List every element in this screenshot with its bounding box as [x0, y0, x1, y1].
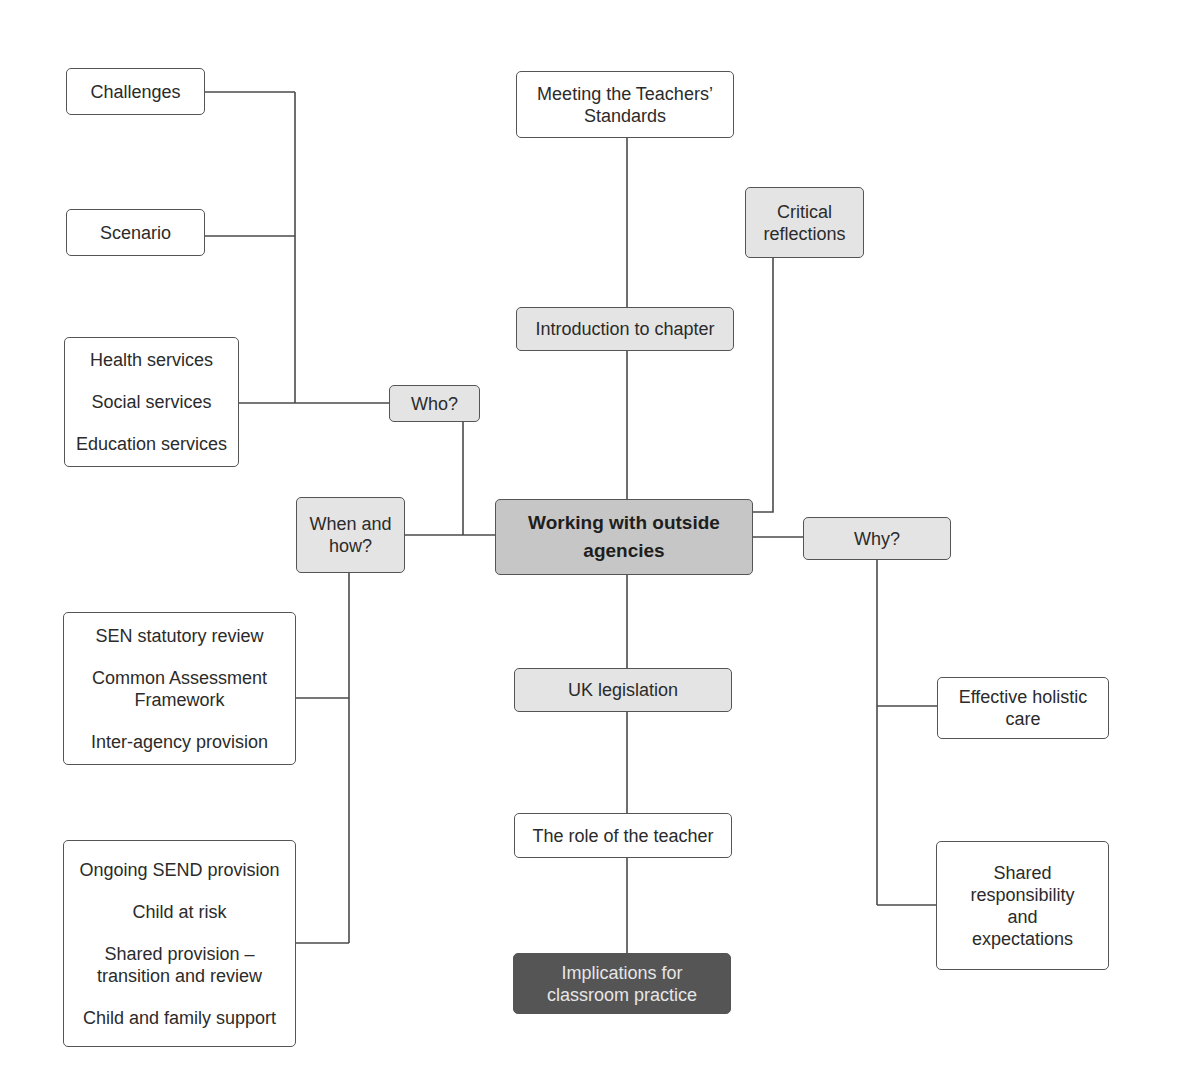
implications-node: Implications for classroom practice — [513, 953, 731, 1014]
connector-critical-center — [752, 257, 773, 512]
introduction-node: Introduction to chapter — [516, 307, 734, 351]
assessment-group-node: SEN statutory review Common Assessment F… — [63, 612, 296, 765]
caf-label-1: Common Assessment — [92, 667, 267, 689]
when-and-how-node: When and how? — [296, 497, 405, 573]
implications-line-1: Implications for — [561, 962, 682, 984]
who-label: Who? — [411, 393, 458, 415]
introduction-label: Introduction to chapter — [535, 318, 714, 340]
shared-line-3: and — [1007, 906, 1037, 928]
caf-label-2: Framework — [134, 689, 224, 711]
shared-line-4: expectations — [972, 928, 1073, 950]
education-services-label: Education services — [76, 433, 227, 455]
why-label: Why? — [854, 528, 900, 550]
scenario-label: Scenario — [100, 222, 171, 244]
health-services-label: Health services — [90, 349, 213, 371]
standards-node: Meeting the Teachers’ Standards — [516, 71, 734, 138]
critical-reflections-node: Critical reflections — [745, 187, 864, 258]
critical-line-1: Critical — [777, 201, 832, 223]
uk-legislation-label: UK legislation — [568, 679, 678, 701]
critical-line-2: reflections — [763, 223, 845, 245]
central-topic-line-2: agencies — [583, 537, 664, 565]
who-node: Who? — [389, 385, 480, 422]
holistic-line-1: Effective holistic — [959, 686, 1088, 708]
challenges-label: Challenges — [90, 81, 180, 103]
provision-group-node: Ongoing SEND provision Child at risk Sha… — [63, 840, 296, 1047]
when-how-line-2: how? — [329, 535, 372, 557]
child-at-risk-label: Child at risk — [132, 901, 226, 923]
ongoing-send-label: Ongoing SEND provision — [79, 859, 279, 881]
holistic-care-node: Effective holistic care — [937, 677, 1109, 739]
standards-line-2: Standards — [584, 105, 666, 127]
shared-line-1: Shared — [993, 862, 1051, 884]
when-how-line-1: When and — [309, 513, 391, 535]
central-topic: Working with outside agencies — [495, 499, 753, 575]
teacher-role-label: The role of the teacher — [532, 825, 713, 847]
inter-agency-label: Inter-agency provision — [91, 731, 268, 753]
central-topic-line-1: Working with outside — [528, 509, 720, 537]
teacher-role-node: The role of the teacher — [514, 813, 732, 858]
mind-map: Working with outside agencies Meeting th… — [0, 0, 1178, 1089]
uk-legislation-node: UK legislation — [514, 668, 732, 712]
sen-review-label: SEN statutory review — [95, 625, 263, 647]
challenges-node: Challenges — [66, 68, 205, 115]
why-node: Why? — [803, 517, 951, 560]
family-support-label: Child and family support — [83, 1007, 276, 1029]
shared-line-2: responsibility — [970, 884, 1074, 906]
shared-provision-label-1: Shared provision – — [104, 943, 254, 965]
implications-line-2: classroom practice — [547, 984, 697, 1006]
holistic-line-2: care — [1005, 708, 1040, 730]
shared-provision-label-2: transition and review — [97, 965, 262, 987]
services-node: Health services Social services Educatio… — [64, 337, 239, 467]
standards-line-1: Meeting the Teachers’ — [537, 83, 713, 105]
social-services-label: Social services — [91, 391, 211, 413]
scenario-node: Scenario — [66, 209, 205, 256]
shared-responsibility-node: Shared responsibility and expectations — [936, 841, 1109, 970]
